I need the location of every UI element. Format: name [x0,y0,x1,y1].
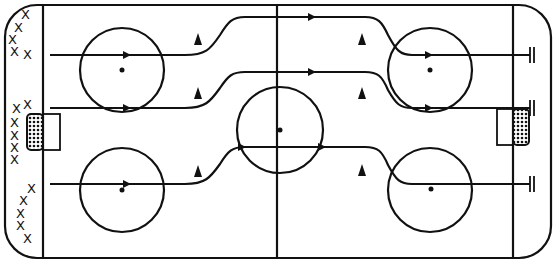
double-bar-icon [530,47,534,63]
right-goal-crease [497,109,513,145]
cone-icon [358,33,366,45]
skating-path-bottom [50,147,530,184]
stop-bars [530,47,534,192]
arrow-icon [123,180,131,188]
player-x-icon: X [10,152,19,167]
player-x-icon: X [23,97,32,112]
left-goal-crease [43,114,60,150]
double-bar-icon [530,176,534,192]
hockey-rink-diagram: X X X X X X X X X X X X X X X X [0,0,554,265]
player-x-icon: X [27,181,36,196]
arrow-icon [308,68,316,76]
left-goal-net-icon [27,114,43,150]
arrow-icon [425,104,433,112]
left-goal [27,114,60,150]
cone-icon [194,33,202,45]
cone-icon [358,164,366,176]
player-x-icon: X [12,101,21,116]
player-x-icon: X [10,44,19,59]
cone-icon [358,87,366,99]
arrow-icon [123,51,131,59]
cone-icon [194,87,202,99]
double-bar-icon [530,100,534,116]
arrow-icon [425,51,433,59]
right-goal [497,109,529,145]
cone-icon [194,165,202,177]
cones [194,33,366,177]
player-x-icon: X [23,47,32,62]
arrow-icon [318,143,326,151]
player-x-icon: X [23,231,32,246]
right-goal-net-icon [513,109,529,145]
skating-path-top [50,17,530,55]
arrow-icon [308,13,316,21]
